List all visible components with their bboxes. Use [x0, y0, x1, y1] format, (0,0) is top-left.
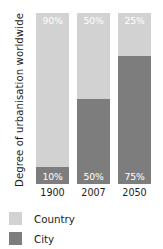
y-axis-label: Degree of urbanisation worldwide	[14, 13, 25, 187]
plot-area: 90% 10% 50% 50% 25%	[36, 13, 159, 184]
x-axis-tick-1900: 1900	[36, 187, 69, 198]
x-axis-tick-2007: 2007	[77, 187, 110, 198]
bar-value-label-city: 10%	[36, 171, 69, 182]
x-axis-tick-2050: 2050	[118, 187, 151, 198]
stacked-bar: 50% 50%	[77, 13, 110, 184]
chart-legend: Country City	[9, 210, 159, 249]
legend-item-country[interactable]: Country	[9, 210, 159, 227]
bar-segment-city[interactable]: 50%	[77, 99, 110, 185]
bar-group-2050: 25% 75%	[118, 13, 151, 184]
chart-container: Degree of urbanisation worldwide 90% 10%…	[0, 0, 163, 249]
bar-value-label-country: 50%	[77, 15, 110, 26]
bar-segment-city[interactable]: 75%	[118, 56, 151, 184]
y-axis-label-area: Degree of urbanisation worldwide	[6, 12, 32, 187]
bar-segment-city[interactable]: 10%	[36, 167, 69, 184]
legend-label-city: City	[34, 233, 54, 245]
bar-value-label-country: 90%	[36, 15, 69, 26]
bar-value-label-city: 50%	[77, 171, 110, 182]
bar-group-1900: 90% 10%	[36, 13, 69, 184]
x-axis-tick-labels: 1900 2007 2050	[36, 187, 159, 203]
bar-segment-country[interactable]: 50%	[77, 13, 110, 99]
legend-swatch-country-icon	[9, 212, 22, 225]
bar-value-label-city: 75%	[118, 171, 151, 182]
legend-item-city[interactable]: City	[9, 230, 159, 247]
stacked-bar: 25% 75%	[118, 13, 151, 184]
legend-swatch-city-icon	[9, 232, 22, 245]
bar-value-label-country: 25%	[118, 15, 151, 26]
stacked-bar: 90% 10%	[36, 13, 69, 184]
bar-segment-country[interactable]: 25%	[118, 13, 151, 56]
bar-group-2007: 50% 50%	[77, 13, 110, 184]
bar-segment-country[interactable]: 90%	[36, 13, 69, 167]
legend-label-country: Country	[34, 213, 75, 225]
